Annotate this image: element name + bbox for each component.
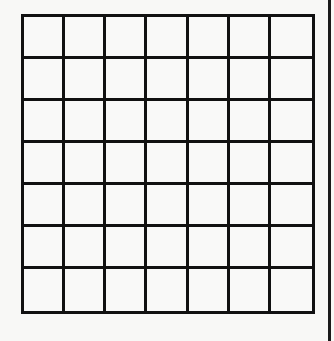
grid-cell-r1-c3 [106, 17, 147, 59]
grid-cell-r4-c3 [106, 143, 147, 185]
grid-cell-r1-c4 [147, 17, 188, 59]
grid-cell-r1-c6 [230, 17, 271, 59]
grid-cell-r6-c2 [65, 227, 106, 269]
grid-cell-r6-c5 [189, 227, 230, 269]
grid-cell-r6-c3 [106, 227, 147, 269]
grid-cell-r4-c6 [230, 143, 271, 185]
grid-cell-r2-c7 [271, 59, 312, 101]
grid-cell-r1-c5 [189, 17, 230, 59]
grid-cell-r7-c1 [24, 269, 65, 311]
grid-cell-r7-c2 [65, 269, 106, 311]
grid-cell-r2-c1 [24, 59, 65, 101]
grid-cell-r2-c2 [65, 59, 106, 101]
grid-cell-r4-c1 [24, 143, 65, 185]
grid-cell-r1-c1 [24, 17, 65, 59]
grid-cell-r3-c1 [24, 101, 65, 143]
grid-cell-r7-c5 [189, 269, 230, 311]
grid-cell-r5-c1 [24, 185, 65, 227]
grid-cell-r3-c5 [189, 101, 230, 143]
grid-cell-r2-c3 [106, 59, 147, 101]
grid-cell-r3-c2 [65, 101, 106, 143]
grid-cell-r2-c5 [189, 59, 230, 101]
grid-cell-r5-c3 [106, 185, 147, 227]
grid-cell-r7-c3 [106, 269, 147, 311]
empty-grid-7x7 [21, 14, 315, 314]
right-edge-bar [328, 0, 331, 341]
grid-cell-r4-c2 [65, 143, 106, 185]
grid-cell-r5-c7 [271, 185, 312, 227]
page [0, 0, 334, 341]
grid-cell-r6-c6 [230, 227, 271, 269]
grid-cell-r2-c6 [230, 59, 271, 101]
grid-cell-r6-c4 [147, 227, 188, 269]
grid-cell-r5-c5 [189, 185, 230, 227]
grid-cell-r5-c6 [230, 185, 271, 227]
grid-cell-r5-c4 [147, 185, 188, 227]
grid-cell-r6-c7 [271, 227, 312, 269]
grid-cell-r1-c2 [65, 17, 106, 59]
grid-cell-r5-c2 [65, 185, 106, 227]
grid-cell-r3-c7 [271, 101, 312, 143]
grid-cell-r6-c1 [24, 227, 65, 269]
grid-cell-r4-c5 [189, 143, 230, 185]
grid-cell-r2-c4 [147, 59, 188, 101]
grid-cell-r3-c3 [106, 101, 147, 143]
grid-cell-r7-c4 [147, 269, 188, 311]
grid-cell-r1-c7 [271, 17, 312, 59]
grid-cell-r3-c6 [230, 101, 271, 143]
grid-cell-r7-c7 [271, 269, 312, 311]
grid-cell-r7-c6 [230, 269, 271, 311]
grid-cell-r4-c7 [271, 143, 312, 185]
grid-cell-r3-c4 [147, 101, 188, 143]
grid-cell-r4-c4 [147, 143, 188, 185]
